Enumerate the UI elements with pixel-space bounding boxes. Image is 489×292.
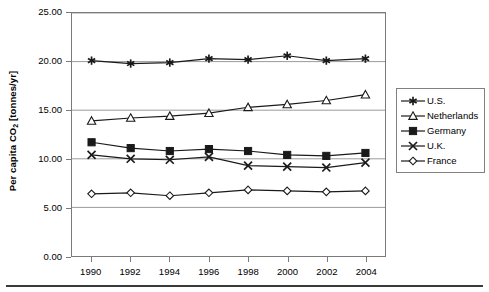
y-axis-title-prefix: Per capita CO bbox=[7, 128, 18, 192]
x-axis-tick-mark bbox=[209, 257, 210, 262]
data-series-layer bbox=[87, 52, 369, 200]
y-axis-title: Per capita CO2 [tonnes/yr] bbox=[2, 0, 24, 262]
square-filled-marker-icon bbox=[323, 152, 330, 159]
square-filled-marker-icon bbox=[400, 124, 426, 138]
x-axis-tick-mark bbox=[130, 257, 131, 262]
square-filled-marker-icon bbox=[166, 147, 173, 154]
y-axis-tick-label: 5.00 bbox=[22, 203, 62, 213]
y-axis-tick-label: 15.00 bbox=[22, 105, 62, 115]
x-cross-marker-icon bbox=[400, 139, 426, 153]
legend-item-germany: Germany bbox=[400, 123, 481, 138]
diamond-open-marker-icon bbox=[205, 189, 213, 197]
legend-item-label: Netherlands bbox=[426, 110, 478, 121]
data-series bbox=[88, 139, 369, 160]
square-filled-marker-icon bbox=[362, 149, 369, 156]
diamond-open-marker-icon bbox=[166, 192, 174, 200]
x-axis-tick-mark bbox=[327, 257, 328, 262]
y-axis-title-suffix: [tonnes/yr] bbox=[7, 71, 18, 124]
asterisk-marker-icon bbox=[400, 94, 426, 108]
diamond-open-marker-icon bbox=[127, 189, 135, 197]
y-axis-title-subscript: 2 bbox=[12, 124, 19, 128]
x-axis-tick-label: 1990 bbox=[70, 266, 112, 277]
data-series bbox=[88, 186, 369, 199]
asterisk-marker-icon bbox=[325, 59, 328, 62]
asterisk-marker-icon bbox=[90, 59, 93, 62]
asterisk-marker-icon bbox=[129, 62, 132, 65]
diamond-open-marker-icon bbox=[88, 190, 96, 198]
x-axis-tick-mark bbox=[366, 257, 367, 262]
y-axis-tick-label: 20.00 bbox=[22, 56, 62, 66]
legend-item-u-k: U.K. bbox=[400, 138, 481, 153]
plot-area bbox=[71, 12, 386, 257]
x-axis-tick-mark bbox=[91, 257, 92, 262]
y-axis-tick-label: 25.00 bbox=[22, 7, 62, 17]
square-filled-marker-icon bbox=[127, 145, 134, 152]
diamond-open-marker-icon bbox=[323, 188, 331, 196]
x-axis-tick-mark bbox=[169, 257, 170, 262]
square-filled-marker-icon bbox=[88, 139, 95, 146]
x-axis-tick-label: 2004 bbox=[345, 266, 387, 277]
legend-item-u-s: U.S. bbox=[400, 93, 481, 108]
legend-item-label: Germany bbox=[426, 125, 466, 136]
y-axis-tick-label: 10.00 bbox=[22, 154, 62, 164]
legend-item-netherlands: Netherlands bbox=[400, 108, 481, 123]
square-filled-marker-icon bbox=[205, 146, 212, 153]
chart-legend: U.S.NetherlandsGermanyU.K.France bbox=[396, 88, 485, 173]
asterisk-marker-icon bbox=[364, 57, 367, 60]
triangle-open-marker-icon bbox=[361, 90, 369, 97]
asterisk-marker-icon bbox=[412, 99, 415, 102]
x-axis-tick-mark bbox=[288, 257, 289, 262]
y-axis-tick-mark bbox=[66, 257, 71, 258]
diamond-open-marker-icon bbox=[409, 157, 417, 165]
asterisk-marker-icon bbox=[208, 57, 211, 60]
footer-rule bbox=[6, 285, 483, 287]
legend-item-label: U.S. bbox=[426, 95, 445, 106]
legend-item-label: U.K. bbox=[426, 140, 445, 151]
square-filled-marker-icon bbox=[284, 151, 291, 158]
asterisk-marker-icon bbox=[286, 54, 289, 57]
diamond-open-marker-icon bbox=[283, 187, 291, 195]
x-axis-tick-mark bbox=[248, 257, 249, 262]
asterisk-marker-icon bbox=[247, 58, 250, 61]
diamond-open-marker-icon bbox=[244, 186, 252, 194]
x-axis-tick-label: 1998 bbox=[227, 266, 269, 277]
square-filled-marker-icon bbox=[244, 147, 251, 154]
square-filled-marker-icon bbox=[409, 127, 416, 134]
legend-item-label: France bbox=[426, 155, 457, 166]
x-axis-tick-label: 2002 bbox=[306, 266, 348, 277]
legend-item-france: France bbox=[400, 153, 481, 168]
x-axis-tick-label: 1994 bbox=[148, 266, 190, 277]
data-series bbox=[88, 52, 369, 68]
asterisk-marker-icon bbox=[169, 61, 172, 64]
y-axis-tick-label: 0.00 bbox=[22, 252, 62, 262]
diamond-open-marker-icon bbox=[400, 154, 426, 168]
x-axis-tick-label: 1992 bbox=[109, 266, 151, 277]
data-series bbox=[87, 90, 369, 124]
plot-canvas bbox=[72, 13, 385, 256]
diamond-open-marker-icon bbox=[362, 187, 370, 195]
x-axis-tick-label: 1996 bbox=[188, 266, 230, 277]
chart-figure: Per capita CO2 [tonnes/yr] 25.0020.0015.… bbox=[0, 0, 489, 292]
x-axis-tick-label: 2000 bbox=[267, 266, 309, 277]
triangle-open-marker-icon bbox=[400, 109, 426, 123]
